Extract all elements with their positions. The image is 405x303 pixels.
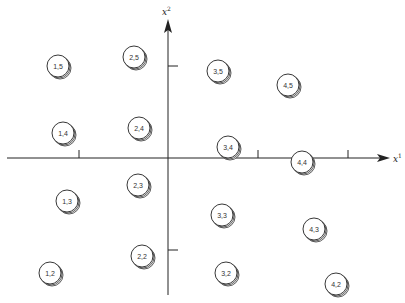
node-label: 3,3 — [217, 212, 227, 219]
lattice-node: 3,5 — [207, 60, 231, 84]
node-label: 4,4 — [297, 159, 307, 166]
node-label: 2,2 — [137, 253, 147, 260]
node-label: 2,3 — [133, 182, 143, 189]
lattice-node: 3,2 — [215, 262, 239, 286]
node-label: 4,5 — [283, 82, 293, 89]
lattice-node: 2,5 — [123, 46, 147, 70]
node-label: 3,4 — [223, 144, 233, 151]
lattice-node: 1,5 — [47, 55, 71, 79]
lattice-node: 4,3 — [303, 218, 327, 242]
node-label: 3,2 — [221, 270, 231, 277]
lattice-node: 2,4 — [128, 117, 152, 141]
lattice-node: 3,3 — [211, 204, 235, 228]
lattice-node: 4,5 — [277, 74, 301, 98]
node-label: 1,2 — [45, 270, 55, 277]
node-label: 1,4 — [58, 130, 68, 137]
node-label: 1,5 — [53, 63, 63, 70]
coordinate-diagram: x1 x2 1,52,53,54,51,42,43,44,41,32,33,34… — [0, 0, 405, 303]
lattice-node: 1,4 — [52, 122, 76, 146]
x1-axis-label: x1 — [393, 152, 402, 164]
lattice-node: 4,4 — [291, 151, 315, 175]
node-label: 4,2 — [331, 281, 341, 288]
lattice-node: 2,2 — [131, 245, 155, 269]
lattice-node: 1,2 — [39, 262, 63, 286]
node-label: 2,5 — [129, 54, 139, 61]
lattice-node: 3,4 — [217, 136, 241, 160]
node-label: 4,3 — [309, 226, 319, 233]
node-label: 1,3 — [62, 198, 72, 205]
lattice-node: 1,3 — [56, 190, 80, 214]
node-label: 2,4 — [134, 125, 144, 132]
node-label: 3,5 — [213, 68, 223, 75]
lattice-node: 4,2 — [325, 273, 349, 297]
lattice-node: 2,3 — [127, 174, 151, 198]
x2-axis-label: x2 — [162, 5, 171, 17]
